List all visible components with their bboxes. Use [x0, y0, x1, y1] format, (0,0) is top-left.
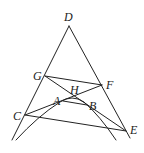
- geometry-diagram: D G F H A B C E: [0, 0, 144, 153]
- label-B: B: [89, 100, 96, 112]
- label-H: H: [70, 84, 79, 96]
- label-C: C: [13, 110, 21, 122]
- segment-CE: [25, 115, 126, 131]
- line-D-right: [69, 26, 130, 138]
- label-F: F: [106, 79, 113, 91]
- parabola-curve: [16, 98, 116, 140]
- label-E: E: [130, 124, 137, 136]
- label-G: G: [33, 70, 42, 82]
- label-D: D: [64, 11, 73, 23]
- label-A: A: [53, 95, 60, 107]
